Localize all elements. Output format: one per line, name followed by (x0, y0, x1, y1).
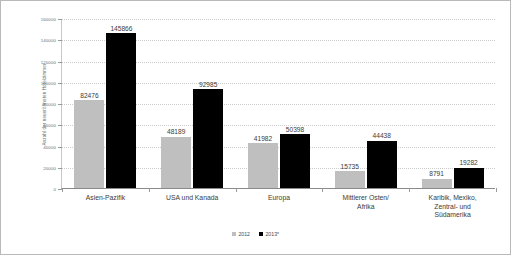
bar-2012-3[interactable]: 15735 (335, 171, 365, 188)
plot-area: 0200004000060000800001000001200001400001… (61, 19, 495, 189)
bar-value-label: 48189 (167, 128, 185, 135)
y-tick-label: 120000 (41, 59, 56, 64)
category-label: Europa (236, 194, 323, 203)
category-separator-tick (322, 188, 323, 192)
bar-value-label: 8791 (429, 170, 444, 177)
legend-item[interactable]: 2012 (232, 231, 250, 237)
bar-value-label: 82476 (80, 92, 98, 99)
legend-label: 2013* (265, 231, 279, 237)
category-separator-tick (149, 188, 150, 192)
y-tick-label: 100000 (41, 80, 56, 85)
bar-group-bars: 4198250398Europa (236, 19, 323, 188)
bar-value-label: 19282 (459, 159, 477, 166)
category-label: Asien-Pazifik (62, 194, 149, 203)
category-separator-tick (409, 188, 410, 192)
bar-2012-0[interactable]: 82476 (74, 100, 104, 188)
y-tick-label: 60000 (43, 123, 56, 128)
bar-group: 879119282Karibik, Mexiko, Zentral- und S… (409, 19, 496, 188)
chart-legend: 20122013* (1, 231, 510, 237)
chart-card: Anzahl der neueröffneten Hotelzimmer 020… (0, 0, 511, 255)
y-tick-label: 20000 (43, 165, 56, 170)
category-separator-tick (236, 188, 237, 192)
bar-group-bars: 879119282Karibik, Mexiko, Zentral- und S… (409, 19, 496, 188)
bar-value-label: 41982 (254, 135, 272, 142)
bar-2012-1[interactable]: 48189 (161, 137, 191, 188)
bar-group: 1573544438Mittlerer Osten/ Afrika (322, 19, 409, 188)
bar-value-label: 145866 (110, 25, 132, 32)
legend-item[interactable]: 2013* (259, 231, 279, 237)
bar-2013-2[interactable]: 50398 (280, 134, 310, 188)
bar-value-label: 50398 (286, 126, 304, 133)
bar-2013-3[interactable]: 44438 (367, 141, 397, 188)
bar-group-bars: 4818992985USA und Kanada (149, 19, 236, 188)
bar-group: 4198250398Europa (236, 19, 323, 188)
bar-value-label: 15735 (341, 163, 359, 170)
category-separator-tick (62, 188, 63, 192)
y-tick-label: 160000 (41, 17, 56, 22)
bar-group-bars: 82476145866Asien-Pazifik (62, 19, 149, 188)
legend-swatch-icon (259, 232, 263, 236)
y-tick-label: 40000 (43, 144, 56, 149)
bar-value-label: 44438 (373, 132, 391, 139)
bar-2013-0[interactable]: 145866 (106, 33, 136, 188)
bar-group-bars: 1573544438Mittlerer Osten/ Afrika (322, 19, 409, 188)
y-tick-label: 0 (53, 187, 56, 192)
legend-label: 2012 (238, 231, 250, 237)
category-label: USA und Kanada (149, 194, 236, 203)
bar-group: 4818992985USA und Kanada (149, 19, 236, 188)
category-label: Mittlerer Osten/ Afrika (322, 194, 409, 211)
category-separator-tick (496, 188, 497, 192)
category-label: Karibik, Mexiko, Zentral- und Südamerika (409, 194, 496, 220)
bar-value-label: 92985 (199, 81, 217, 88)
bar-2013-4[interactable]: 19282 (454, 168, 484, 188)
bar-2013-1[interactable]: 92985 (193, 89, 223, 188)
bar-2012-4[interactable]: 8791 (422, 179, 452, 188)
bar-group: 82476145866Asien-Pazifik (62, 19, 149, 188)
y-tick-label: 140000 (41, 38, 56, 43)
bar-2012-2[interactable]: 41982 (248, 143, 278, 188)
y-tick-label: 80000 (43, 102, 56, 107)
legend-swatch-icon (232, 232, 236, 236)
